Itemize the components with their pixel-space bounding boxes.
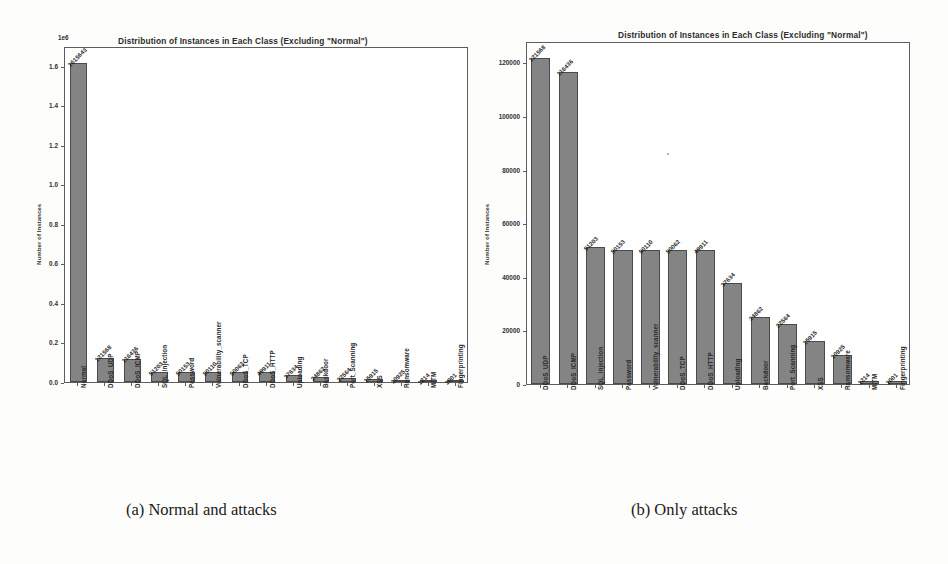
y-tick-mark (523, 224, 526, 225)
x-tick-mark (401, 383, 402, 386)
figure-container: Distribution of Instances in Each Class … (0, 0, 948, 564)
y-tick-mark (61, 343, 64, 344)
x-tick-label-MITM: MITM (871, 374, 878, 390)
x-tick-label-Backdoor: Backdoor (762, 360, 769, 390)
x-tick-mark (622, 385, 623, 388)
chart-title-b: Distribution of Instances in Each Class … (618, 30, 868, 40)
x-tick-label-DDoS_HTTP: DDoS_HTTP (269, 350, 276, 388)
y-tick-mark (523, 171, 526, 172)
x-tick-mark (104, 383, 105, 386)
x-tick-label-Ransomware: Ransomware (844, 350, 851, 390)
x-tick-label-SQL_injection: SQL_injection (597, 347, 604, 390)
x-tick-label-DDoS_TCP: DDoS_TCP (242, 354, 249, 388)
x-tick-mark (595, 385, 596, 388)
x-tick-mark (239, 383, 240, 386)
y-tick-mark (523, 117, 526, 118)
subfigure-b: Distribution of Instances in Each Class … (474, 0, 948, 564)
x-tick-label-Vulnerability_scanner: Vulnerability_scanner (215, 321, 222, 388)
plot-area-b (526, 42, 910, 385)
x-tick-mark (131, 383, 132, 386)
x-tick-mark (293, 383, 294, 386)
x-tick-label-Port_Scanning: Port_Scanning (789, 345, 796, 390)
x-tick-mark (704, 385, 705, 388)
chart-panel-b: Distribution of Instances in Each Class … (474, 0, 948, 480)
y-axis-label-b: Number of Instances (483, 204, 490, 265)
y-tick-label: 0.0 (16, 379, 58, 386)
caption-b: (b) Only attacks (631, 500, 737, 520)
x-tick-label-Port_Scanning: Port_Scanning (349, 343, 356, 388)
y-tick-label: 120000 (478, 59, 520, 66)
x-tick-mark (732, 385, 733, 388)
y-tick-mark (61, 383, 64, 384)
y-axis-offset-text-a: 1e6 (58, 34, 69, 41)
x-tick-label-Fingerprinting: Fingerprinting (457, 344, 464, 388)
y-tick-mark (61, 304, 64, 305)
x-tick-label-Password: Password (625, 360, 632, 390)
scan-speck (667, 153, 669, 155)
x-tick-mark (428, 383, 429, 386)
x-tick-mark (787, 385, 788, 388)
y-tick-label: 1.2 (16, 142, 58, 149)
chart-title-a: Distribution of Instances in Each Class … (118, 36, 368, 46)
y-tick-label: 1.4 (16, 102, 58, 109)
y-tick-label: 80000 (478, 167, 520, 174)
x-tick-mark (266, 383, 267, 386)
x-tick-label-XSS: XSS (376, 375, 383, 388)
y-tick-label: 0.2 (16, 339, 58, 346)
y-tick-mark (523, 278, 526, 279)
y-tick-mark (523, 331, 526, 332)
x-tick-label-Normal: Normal (80, 366, 87, 388)
y-tick-mark (61, 185, 64, 186)
x-tick-label-Vulnerability_scanner: Vulnerability_scanner (652, 323, 659, 390)
x-tick-mark (185, 383, 186, 386)
x-tick-label-DDoS_UDP: DDoS_UDP (542, 356, 549, 390)
x-tick-label-DDoS_HTTP: DDoS_HTTP (707, 352, 714, 390)
x-tick-label-Uploading: Uploading (734, 359, 741, 390)
x-tick-label-Fingerprinting: Fingerprinting (899, 346, 906, 390)
y-tick-label: 1.6 (16, 63, 58, 70)
bar-DDoS_ICMP (559, 72, 578, 384)
x-tick-mark (759, 385, 760, 388)
y-tick-label: 0.8 (16, 221, 58, 228)
y-tick-label: 40000 (478, 274, 520, 281)
x-tick-mark (841, 385, 842, 388)
x-tick-label-DDoS_ICMP: DDoS_ICMP (134, 351, 141, 388)
y-tick-mark (61, 67, 64, 68)
bar-DDoS_UDP (531, 58, 550, 384)
caption-a: (a) Normal and attacks (126, 500, 277, 520)
y-tick-mark (523, 385, 526, 386)
chart-panel-a: Distribution of Instances in Each Class … (0, 0, 474, 480)
y-tick-label: 0 (478, 381, 520, 388)
x-tick-mark (649, 385, 650, 388)
x-tick-mark (77, 383, 78, 386)
y-tick-mark (61, 225, 64, 226)
y-tick-label: 1.0 (16, 181, 58, 188)
y-tick-label: 100000 (478, 113, 520, 120)
x-tick-label-Backdoor: Backdoor (322, 358, 329, 388)
x-tick-label-DDoS_UDP: DDoS_UDP (107, 354, 114, 388)
y-tick-label: 20000 (478, 327, 520, 334)
bar-series-b (527, 43, 909, 384)
x-tick-mark (347, 383, 348, 386)
x-tick-mark (320, 383, 321, 386)
x-tick-mark (374, 383, 375, 386)
x-tick-mark (814, 385, 815, 388)
subfigure-a: Distribution of Instances in Each Class … (0, 0, 474, 564)
bar-series-a (65, 48, 467, 382)
y-tick-label: 0.6 (16, 260, 58, 267)
x-tick-label-MITM: MITM (430, 372, 437, 388)
x-tick-label-DDoS_TCP: DDoS_TCP (679, 356, 686, 390)
x-tick-mark (677, 385, 678, 388)
bar-Normal (70, 63, 87, 382)
x-tick-label-DDoS_ICMP: DDoS_ICMP (570, 353, 577, 390)
y-tick-mark (61, 106, 64, 107)
y-tick-mark (523, 63, 526, 64)
x-tick-mark (869, 385, 870, 388)
plot-area-a (64, 47, 468, 383)
y-axis-label-a: Number of Instances (35, 204, 42, 265)
x-tick-mark (567, 385, 568, 388)
y-tick-mark (61, 146, 64, 147)
x-tick-mark (896, 385, 897, 388)
x-tick-mark (212, 383, 213, 386)
x-tick-mark (540, 385, 541, 388)
